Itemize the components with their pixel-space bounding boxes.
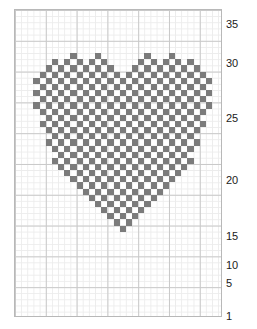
pattern-cell xyxy=(194,139,200,145)
row-number-label: 15 xyxy=(226,231,252,242)
pattern-cell xyxy=(200,121,206,127)
row-number-axis: 35302520151051 xyxy=(226,0,257,329)
pattern-cell xyxy=(181,164,187,170)
pattern-cells-layer xyxy=(15,10,221,316)
pattern-cell xyxy=(151,195,157,201)
row-number-label: 35 xyxy=(226,19,252,30)
pattern-cell xyxy=(144,201,150,207)
pattern-cell xyxy=(126,219,132,225)
pattern-cell xyxy=(175,170,181,176)
row-number-label: 30 xyxy=(226,58,252,69)
pattern-cell xyxy=(206,78,212,84)
pattern-cell xyxy=(194,127,200,133)
row-number-label: 1 xyxy=(226,311,252,322)
chart-grid-panel[interactable] xyxy=(14,9,222,317)
pattern-cell xyxy=(138,207,144,213)
cross-stitch-chart: 35302520151051 xyxy=(0,0,257,329)
row-number-label: 25 xyxy=(226,113,252,124)
row-number-label: 10 xyxy=(226,260,252,271)
pattern-cell xyxy=(157,189,163,195)
pattern-cell xyxy=(206,90,212,96)
pattern-cell xyxy=(120,226,126,232)
pattern-cell xyxy=(206,102,212,108)
row-number-label: 20 xyxy=(226,175,252,186)
pattern-cell xyxy=(187,158,193,164)
pattern-cell xyxy=(169,176,175,182)
row-number-label: 5 xyxy=(226,278,252,289)
pattern-cell xyxy=(200,109,206,115)
pattern-cell xyxy=(132,213,138,219)
pattern-cell xyxy=(163,182,169,188)
pattern-cell xyxy=(187,146,193,152)
